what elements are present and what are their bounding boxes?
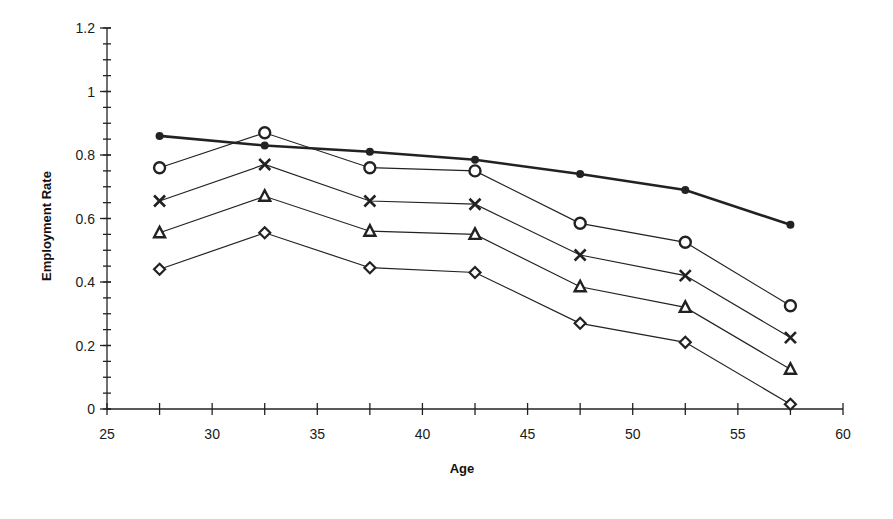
open-circle-marker-icon	[680, 237, 691, 248]
y-tick-label: 0.8	[76, 147, 96, 163]
diamond-marker-icon	[680, 337, 691, 348]
diamond-marker-icon	[470, 267, 481, 278]
y-tick-label: 0.4	[76, 274, 96, 290]
open-circle-marker-icon	[154, 162, 165, 173]
x-tick-label: 25	[99, 426, 115, 442]
filled-dot-marker-icon	[681, 186, 689, 194]
filled-dot-marker-icon	[786, 221, 794, 229]
triangle-marker-icon	[154, 227, 165, 238]
triangle-marker-icon	[575, 281, 586, 292]
diamond-marker-icon	[785, 399, 796, 410]
x-tick-label: 50	[625, 426, 641, 442]
y-tick-label: 0	[87, 401, 95, 417]
filled-dot-marker-icon	[576, 170, 584, 178]
triangle-marker-icon	[680, 301, 691, 312]
axes: 00.20.40.60.811.22530354045505560	[76, 20, 851, 442]
open-circle-marker-icon	[575, 218, 586, 229]
series-line	[160, 136, 791, 225]
filled-dot-marker-icon	[471, 156, 479, 164]
open-circle-marker-icon	[364, 162, 375, 173]
filled-dot-marker-icon	[156, 132, 164, 140]
filled-dot-marker-icon	[366, 148, 374, 156]
triangle-marker-icon	[259, 190, 270, 201]
cross-marker-icon	[785, 332, 796, 343]
open-circle-marker-icon	[470, 165, 481, 176]
diamond-marker-icon	[364, 262, 375, 273]
x-tick-label: 60	[835, 426, 851, 442]
cross-marker-icon	[680, 270, 691, 281]
employment-rate-chart: 00.20.40.60.811.22530354045505560 Age Em…	[0, 0, 893, 519]
series-line	[160, 196, 791, 369]
x-axis-title: Age	[450, 461, 475, 476]
series-layer	[154, 127, 796, 409]
triangle-marker-icon	[364, 225, 375, 236]
series-line	[160, 165, 791, 338]
x-tick-label: 35	[309, 426, 325, 442]
diamond-marker-icon	[575, 318, 586, 329]
filled-dot-marker-icon	[261, 141, 269, 149]
x-tick-label: 55	[730, 426, 746, 442]
cross-marker-icon	[259, 159, 270, 170]
triangle-marker-icon	[785, 363, 796, 374]
y-tick-label: 1.2	[76, 20, 96, 36]
triangle-marker-icon	[470, 228, 481, 239]
y-tick-label: 1	[87, 84, 95, 100]
series-1	[156, 132, 795, 229]
cross-marker-icon	[154, 196, 165, 207]
x-tick-label: 30	[204, 426, 220, 442]
y-axis-title: Employment Rate	[39, 171, 54, 281]
x-tick-label: 40	[415, 426, 431, 442]
series-5	[154, 227, 796, 409]
x-tick-label: 45	[520, 426, 536, 442]
cross-marker-icon	[575, 250, 586, 261]
series-4	[154, 190, 796, 374]
open-circle-marker-icon	[259, 127, 270, 138]
open-circle-marker-icon	[785, 300, 796, 311]
y-tick-label: 0.2	[76, 338, 96, 354]
series-line	[160, 233, 791, 404]
diamond-marker-icon	[259, 227, 270, 238]
y-tick-label: 0.6	[76, 211, 96, 227]
diamond-marker-icon	[154, 264, 165, 275]
